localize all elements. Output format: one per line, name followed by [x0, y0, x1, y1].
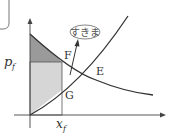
point-f-label: F	[64, 49, 72, 62]
producer-area	[30, 62, 62, 115]
quantity-subscript: f	[62, 124, 68, 133]
x-axis-arrow-icon	[160, 113, 166, 118]
callout-arrowhead-icon	[75, 39, 80, 47]
callout-label: すきま	[70, 27, 100, 38]
diagram-canvas: すきま p f x f F E G	[0, 0, 171, 135]
point-e-label: E	[96, 65, 104, 78]
frame-corner	[0, 0, 9, 29]
quantity-label: x	[56, 117, 63, 131]
supply-demand-diagram: すきま p f x f F E G	[0, 0, 171, 135]
y-axis-arrow-icon	[28, 18, 33, 24]
price-subscript: f	[11, 62, 17, 71]
point-g-label: G	[65, 89, 74, 102]
